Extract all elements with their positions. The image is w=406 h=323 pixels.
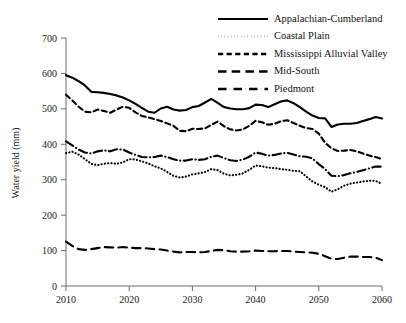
- series-line-0: [66, 75, 382, 127]
- y-tick-label: 200: [42, 210, 57, 221]
- x-axis-ticks: 201020202030204020502060: [56, 286, 392, 305]
- x-tick-label: 2050: [309, 294, 329, 305]
- x-tick-label: 2010: [56, 294, 76, 305]
- y-tick-label: 500: [42, 103, 57, 114]
- legend-label-4: Piedmont: [274, 83, 314, 94]
- y-tick-label: 600: [42, 68, 57, 79]
- series-line-4: [66, 141, 382, 176]
- chart-legend: Appalachian-CumberlandCoastal PlainMissi…: [218, 13, 388, 94]
- x-tick-label: 2020: [119, 294, 139, 305]
- x-tick-label: 2030: [182, 294, 202, 305]
- y-tick-label: 0: [52, 281, 57, 292]
- chart-canvas: Water yield (mm) 0100200300400500600700 …: [0, 0, 406, 323]
- y-axis-title: Water yield (mm): [10, 128, 22, 199]
- y-tick-label: 700: [42, 33, 57, 44]
- series-line-1: [66, 152, 382, 192]
- legend-label-3: Mid-South: [274, 65, 320, 76]
- y-axis-ticks: 0100200300400500600700: [42, 33, 66, 292]
- y-axis-title-group: Water yield (mm): [10, 128, 22, 199]
- legend-label-1: Coastal Plain: [274, 30, 330, 41]
- legend-label-0: Appalachian-Cumberland: [274, 13, 383, 24]
- x-tick-label: 2040: [246, 294, 266, 305]
- y-tick-label: 300: [42, 174, 57, 185]
- x-tick-label: 2060: [372, 294, 392, 305]
- y-tick-label: 100: [42, 245, 57, 256]
- data-series-group: [66, 75, 382, 260]
- series-line-3: [66, 242, 382, 260]
- y-tick-label: 400: [42, 139, 57, 150]
- legend-label-2: Mississippi Alluvial Valley: [274, 48, 388, 59]
- water-yield-line-chart: Water yield (mm) 0100200300400500600700 …: [0, 0, 406, 323]
